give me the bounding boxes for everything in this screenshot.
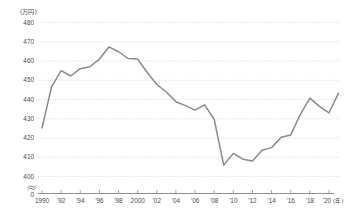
salary-series-line [42,47,339,165]
y-tick-zero: 0 [30,191,34,198]
y-tick-480: 480 [23,19,34,26]
x-tick-label-2016: '16 [287,197,296,204]
y-tick-460: 460 [23,57,34,64]
y-tick-450: 450 [23,76,34,83]
x-tick-label-1998: '98 [114,197,123,204]
x-tick-label-2004: '04 [172,197,181,204]
y-axis-unit-label: (万円) [20,8,37,16]
y-axis-break-icon [28,186,37,190]
x-tick-label-2014: '14 [267,197,276,204]
x-tick-label-2018: '18 [306,197,315,204]
x-tick-label-2000: 2000 [131,197,146,204]
gridlines [38,23,340,177]
y-tick-470: 470 [23,38,34,45]
x-tick-label-2010: '10 [229,197,238,204]
x-tick-label-2002: '02 [153,197,162,204]
y-tick-400: 400 [23,173,34,180]
x-tick-label-2008: '08 [210,197,219,204]
x-tick-labels: 1990 '92 '94 '96 '98 2000 '02 '04 '06 '0… [35,197,343,205]
x-axis-unit-label: (年) [333,197,343,205]
x-tick-label-1996: '96 [95,197,104,204]
y-tick-410: 410 [23,153,34,160]
x-tick-label-1994: '94 [76,197,85,204]
x-tick-label-2012: '12 [248,197,257,204]
y-tick-430: 430 [23,115,34,122]
chart-svg: (万円) 480 470 460 450 440 430 420 410 400… [0,0,346,218]
salary-line-chart: (万円) 480 470 460 450 440 430 420 410 400… [0,0,346,218]
y-tick-420: 420 [23,134,34,141]
y-tick-labels: 480 470 460 450 440 430 420 410 400 0 [23,19,34,198]
x-tick-label-1990: 1990 [35,197,50,204]
y-tick-440: 440 [23,96,34,103]
x-tick-label-1992: '92 [57,197,66,204]
x-tick-label-2006: '06 [191,197,200,204]
x-tick-label-2020: '20 [323,197,332,204]
